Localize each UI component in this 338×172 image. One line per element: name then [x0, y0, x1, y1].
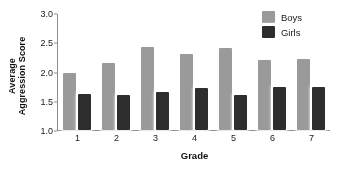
bar-girls-grade-1: [78, 94, 91, 130]
bar-boys-grade-4: [180, 54, 193, 130]
x-axis-tick-labels: 1234567: [58, 133, 331, 143]
x-axis-tick-label: 7: [292, 133, 331, 143]
bar-girls-grade-6: [273, 87, 286, 130]
bar-boys-grade-2: [102, 63, 115, 130]
y-axis-title-line2: Aggression Score: [17, 37, 27, 116]
bar-group: [175, 14, 214, 130]
y-axis-tick-mark: [54, 72, 57, 73]
bar-girls-grade-4: [195, 88, 208, 130]
y-axis-tick-label: 1.0: [27, 126, 57, 136]
x-axis-tick-label: 6: [253, 133, 292, 143]
bar-chart: Average Aggression Score 3.02.52.01.51.0…: [0, 0, 338, 172]
x-axis-tick-label: 3: [136, 133, 175, 143]
y-axis-tick-label: 2.0: [27, 68, 57, 78]
x-axis-title: Grade: [58, 150, 331, 161]
bar-girls-grade-3: [156, 92, 169, 130]
legend-item-girls: Girls: [262, 26, 302, 38]
x-axis-tick-label: 2: [97, 133, 136, 143]
y-axis-tick-label: 3.0: [27, 9, 57, 19]
y-axis-tick-mark: [54, 101, 57, 102]
bar-girls-grade-5: [234, 95, 247, 130]
x-axis-tick-label: 4: [175, 133, 214, 143]
x-axis-tick-label: 5: [214, 133, 253, 143]
bar-group: [58, 14, 97, 130]
legend-swatch-boys: [262, 11, 275, 23]
bar-boys-grade-1: [63, 73, 76, 130]
legend-swatch-girls: [262, 26, 275, 38]
legend-label: Girls: [281, 27, 301, 38]
bar-boys-grade-5: [219, 48, 232, 130]
y-axis-tick-label: 1.5: [27, 97, 57, 107]
y-axis-tick-label: 2.5: [27, 38, 57, 48]
bar-group: [97, 14, 136, 130]
legend-label: Boys: [281, 12, 302, 23]
x-axis-tick-label: 1: [58, 133, 97, 143]
y-axis-tick-mark: [54, 14, 57, 15]
bar-boys-grade-6: [258, 60, 271, 130]
y-axis-tick-mark: [54, 43, 57, 44]
legend-item-boys: Boys: [262, 11, 302, 23]
bar-boys-grade-3: [141, 47, 154, 130]
chart-legend: BoysGirls: [262, 11, 302, 38]
x-axis-line: [57, 130, 330, 131]
bar-group: [213, 14, 252, 130]
y-axis-title-line1: Average: [7, 58, 17, 94]
y-axis-tick-mark: [54, 131, 57, 132]
bar-girls-grade-2: [117, 95, 130, 130]
bar-girls-grade-7: [312, 87, 325, 130]
bar-group: [136, 14, 175, 130]
bar-boys-grade-7: [297, 59, 310, 130]
